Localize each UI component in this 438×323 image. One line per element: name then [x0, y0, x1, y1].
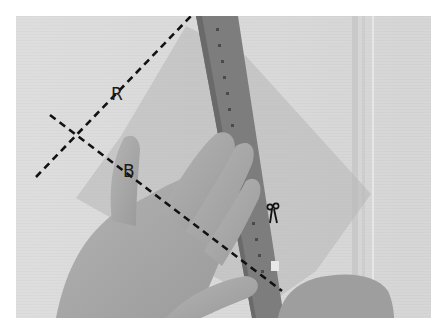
label-r: R	[111, 86, 123, 103]
label-b: B	[123, 163, 135, 180]
photo	[16, 16, 431, 318]
